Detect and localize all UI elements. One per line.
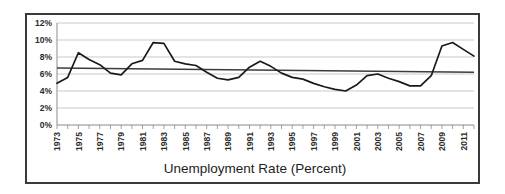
chart-title: Unemployment Rate (Percent) (164, 161, 346, 176)
x-axis-tick-label: 1995 (287, 132, 297, 151)
x-axis-tick-label: 1983 (159, 132, 169, 151)
x-axis-tick-label: 1989 (223, 132, 233, 151)
y-axis-tick-label: 6% (40, 69, 53, 79)
y-axis-tick-label: 2% (40, 103, 53, 113)
x-axis-tick-label: 1981 (138, 132, 148, 151)
x-axis-tick-label: 1991 (245, 132, 255, 151)
x-axis-tick-label: 1975 (74, 132, 84, 151)
x-axis-tick-label: 2005 (394, 132, 404, 151)
x-axis-tick-label: 2001 (352, 132, 362, 151)
y-axis-tick-label: 0% (40, 120, 53, 130)
y-axis-tick-label: 8% (40, 52, 53, 62)
unemployment-rate-line-chart: 0%2%4%6%8%10%12% 19731975197719791981198… (27, 15, 478, 182)
x-axis-tick-label: 2003 (373, 132, 383, 151)
x-axis-tick-label: 2009 (437, 132, 447, 151)
chart-page: 0%2%4%6%8%10%12% 19731975197719791981198… (0, 0, 505, 194)
x-axis-tick-label: 2007 (416, 132, 426, 151)
y-axis-tick-label: 4% (40, 86, 53, 96)
x-axis-tick-label: 2011 (459, 132, 469, 151)
x-axis-tick-label: 1987 (202, 132, 212, 151)
x-axis-tickmarks (57, 125, 474, 129)
x-axis-tick-label: 1985 (181, 132, 191, 151)
y-axis-tick-label: 12% (35, 18, 52, 28)
chart-frame: 0%2%4%6%8%10%12% 19731975197719791981198… (25, 13, 480, 184)
x-axis-tick-label: 1977 (95, 132, 105, 151)
x-axis-tick-label: 1999 (330, 132, 340, 151)
y-axis-labels: 0%2%4%6%8%10%12% (35, 18, 52, 130)
gridlines (57, 23, 474, 108)
x-axis-tick-label: 1973 (52, 132, 62, 151)
x-axis-tick-label: 1997 (309, 132, 319, 151)
unemployment-rate-series-line (57, 43, 474, 91)
x-axis-tick-label: 1993 (266, 132, 276, 151)
x-axis-tick-label: 1979 (116, 132, 126, 151)
x-axis-labels: 1973197519771979198119831985198719891991… (52, 132, 468, 151)
trend-line (57, 68, 474, 72)
y-axis-tick-label: 10% (35, 35, 52, 45)
